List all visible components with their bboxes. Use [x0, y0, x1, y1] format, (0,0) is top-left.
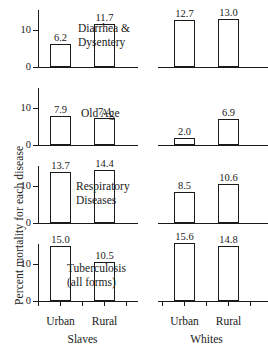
bar-value-label: 10.6 — [219, 172, 237, 184]
bar-value-label: 13.0 — [219, 7, 237, 19]
y-axis-tick: 0 — [33, 145, 38, 146]
x-axis-tick — [162, 302, 163, 306]
x-axis-baseline — [38, 145, 138, 146]
bar: 7.9 — [50, 116, 71, 145]
x-axis-baseline — [158, 301, 268, 302]
x-axis-category-label: Rural — [92, 314, 118, 328]
x-axis-group-label: Slaves — [67, 332, 97, 346]
y-axis-tick-label: 0 — [26, 294, 31, 307]
x-axis-baseline — [158, 145, 268, 146]
disease-panel-row: 0107.97.4Old Age2.06.9 — [18, 80, 268, 158]
y-axis-tick-label: 10 — [21, 179, 32, 192]
bar-value-label: 8.5 — [178, 180, 191, 192]
x-axis-tick — [104, 302, 105, 306]
y-axis-title-container: Percent mortality for each disease — [0, 0, 18, 320]
bar: 6.9 — [218, 119, 239, 145]
disease-label: Old Age — [81, 107, 120, 121]
x-axis-tick — [126, 302, 127, 306]
y-axis-tick-label: 0 — [26, 216, 31, 229]
y-axis-spine — [38, 88, 39, 145]
x-axis-category-label: Urban — [46, 314, 75, 328]
y-axis-tick: 0 — [33, 223, 38, 224]
bar-value-label: 2.0 — [178, 126, 191, 138]
x-axis-tick — [184, 302, 185, 306]
bar: 15.6 — [174, 243, 195, 301]
y-axis-tick: 10 — [33, 186, 38, 187]
disease-label-line: Old Age — [81, 107, 120, 121]
disease-label-line: Respiratory — [76, 180, 130, 194]
disease-panel-row: 0106.211.7Diarrhea &Dysentery12.713.0 — [18, 2, 268, 80]
bar-value-label: 15.0 — [51, 234, 69, 246]
disease-panel-row: 01015.010.5Tuberculosis(all forms)15.614… — [18, 236, 268, 314]
bar: 13.0 — [218, 19, 239, 67]
panel-slaves: 0107.97.4 — [18, 80, 140, 158]
disease-label-line: (all forms) — [67, 276, 126, 290]
y-axis-tick: 10 — [33, 108, 38, 109]
disease-label-line: Diarrhea & — [78, 22, 130, 36]
y-axis-tick-label: 10 — [21, 257, 32, 270]
y-axis-spine — [38, 244, 39, 301]
x-axis-tick — [82, 302, 83, 306]
panel-whites: 2.06.9 — [154, 80, 268, 158]
x-axis-baseline — [38, 301, 138, 302]
bar-value-label: 13.7 — [51, 160, 69, 172]
disease-label-line: Dysentery — [78, 36, 130, 50]
bar: 8.5 — [174, 192, 195, 223]
panel-whites: 8.510.6 — [154, 158, 268, 236]
x-axis-category-label: Rural — [216, 314, 242, 328]
x-axis-tick — [60, 302, 61, 306]
y-axis-tick-label: 10 — [21, 23, 32, 36]
disease-panel-row: 01013.714.4RespiratoryDiseases8.510.6 — [18, 158, 268, 236]
y-axis-tick: 10 — [33, 30, 38, 31]
x-axis-category-label: Urban — [170, 314, 199, 328]
x-axis-baseline — [38, 223, 138, 224]
disease-label: Diarrhea &Dysentery — [78, 22, 130, 49]
bar: 7.4 — [94, 118, 115, 145]
x-axis-baseline — [158, 223, 268, 224]
bar-value-label: 6.2 — [54, 32, 67, 44]
y-axis-tick-label: 10 — [21, 101, 32, 114]
disease-label: RespiratoryDiseases — [76, 180, 130, 207]
y-axis-tick: 0 — [33, 67, 38, 68]
bar-value-label: 7.9 — [54, 104, 67, 116]
x-axis-baseline — [38, 67, 138, 68]
mortality-bar-chart-figure: Percent mortality for each disease 0106.… — [0, 0, 268, 357]
x-axis-tick — [228, 302, 229, 306]
bar: 13.7 — [50, 172, 71, 223]
disease-label: Tuberculosis(all forms) — [67, 262, 126, 289]
bar: 12.7 — [174, 20, 195, 67]
y-axis-tick-label: 0 — [26, 60, 31, 73]
x-axis-tick — [38, 302, 39, 306]
panel-whites: 15.614.8 — [154, 236, 268, 314]
y-axis-spine — [38, 166, 39, 223]
x-axis-tick — [206, 302, 207, 306]
bar-value-label: 14.4 — [95, 158, 113, 170]
x-axis-group-label: Whites — [190, 332, 223, 346]
bar-value-label: 15.6 — [175, 231, 193, 243]
y-axis-tick: 10 — [33, 264, 38, 265]
bar: 14.8 — [218, 246, 239, 301]
x-axis-baseline — [158, 67, 268, 68]
bar: 6.2 — [50, 44, 71, 67]
bar: 2.0 — [174, 138, 195, 145]
x-axis-tick — [250, 302, 251, 306]
bar-value-label: 6.9 — [222, 107, 235, 119]
bar: 10.6 — [218, 184, 239, 223]
bar-value-label: 12.7 — [175, 8, 193, 20]
y-axis-spine — [38, 10, 39, 67]
bar-value-label: 14.8 — [219, 234, 237, 246]
disease-label-line: Diseases — [76, 194, 130, 208]
bar-value-label: 10.5 — [95, 250, 113, 262]
y-axis-tick-label: 0 — [26, 138, 31, 151]
disease-label-line: Tuberculosis — [67, 262, 126, 276]
panel-whites: 12.713.0 — [154, 2, 268, 80]
